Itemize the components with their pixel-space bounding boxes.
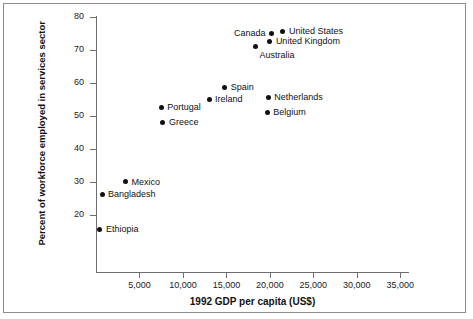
y-tick-30 (90, 182, 96, 183)
x-tick-label-35000: 35,000 (370, 281, 430, 290)
x-tick-30000 (357, 272, 358, 278)
data-point-united-kingdom (267, 39, 272, 44)
x-tick-15000 (226, 272, 227, 278)
point-label-australia: Australia (260, 51, 295, 60)
x-axis-line (96, 272, 409, 273)
y-tick-label-30: 30 (50, 177, 84, 186)
data-point-canada (269, 31, 274, 36)
y-tick-20 (90, 215, 96, 216)
x-tick-10000 (183, 272, 184, 278)
point-label-spain: Spain (231, 83, 254, 92)
point-label-canada: Canada (234, 29, 266, 38)
data-point-greece (160, 120, 165, 125)
y-tick-60 (90, 83, 96, 84)
y-tick-70 (90, 50, 96, 51)
data-point-ireland (207, 97, 212, 102)
point-label-ireland: Ireland (215, 95, 243, 104)
data-point-australia (253, 44, 258, 49)
y-tick-label-60: 60 (50, 78, 84, 87)
data-point-portugal (159, 105, 164, 110)
scatter-plot: Percent of workforce employed in service… (0, 0, 473, 319)
x-tick-20000 (270, 272, 271, 278)
y-tick-label-70: 70 (50, 45, 84, 54)
y-tick-80 (90, 17, 96, 18)
point-label-united-kingdom: United Kingdom (276, 37, 340, 46)
y-tick-label-20: 20 (50, 210, 84, 219)
x-tick-5000 (139, 272, 140, 278)
point-label-greece: Greece (169, 118, 199, 127)
x-tick-25000 (313, 272, 314, 278)
data-point-bangladesh (100, 192, 105, 197)
data-point-ethiopia (97, 227, 102, 232)
y-axis-line (96, 16, 97, 273)
y-tick-label-40: 40 (50, 144, 84, 153)
point-label-mexico: Mexico (132, 177, 161, 186)
data-point-mexico (123, 179, 128, 184)
point-label-united-states: United States (289, 27, 343, 36)
y-axis-title: Percent of workforce employed in service… (36, 46, 47, 246)
point-label-ethiopia: Ethiopia (106, 225, 139, 234)
data-point-netherlands (266, 95, 271, 100)
point-label-bangladesh: Bangladesh (108, 190, 156, 199)
point-label-portugal: Portugal (167, 103, 201, 112)
x-axis-title: 1992 GDP per capita (US$) (96, 296, 409, 307)
x-tick-35000 (400, 272, 401, 278)
y-tick-label-80: 80 (50, 12, 84, 21)
data-point-united-states (280, 29, 285, 34)
y-tick-label-50: 50 (50, 111, 84, 120)
point-label-belgium: Belgium (273, 108, 306, 117)
y-tick-40 (90, 149, 96, 150)
point-label-netherlands: Netherlands (274, 93, 323, 102)
y-tick-50 (90, 116, 96, 117)
data-point-belgium (265, 110, 270, 115)
data-point-spain (222, 85, 227, 90)
